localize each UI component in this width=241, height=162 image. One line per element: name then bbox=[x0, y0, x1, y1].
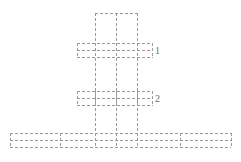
diagram-canvas: 1 2 bbox=[0, 0, 241, 162]
callout-label-1: 1 bbox=[155, 46, 160, 56]
structural-schematic-drawing bbox=[0, 0, 241, 162]
callout-label-2: 2 bbox=[155, 94, 160, 104]
